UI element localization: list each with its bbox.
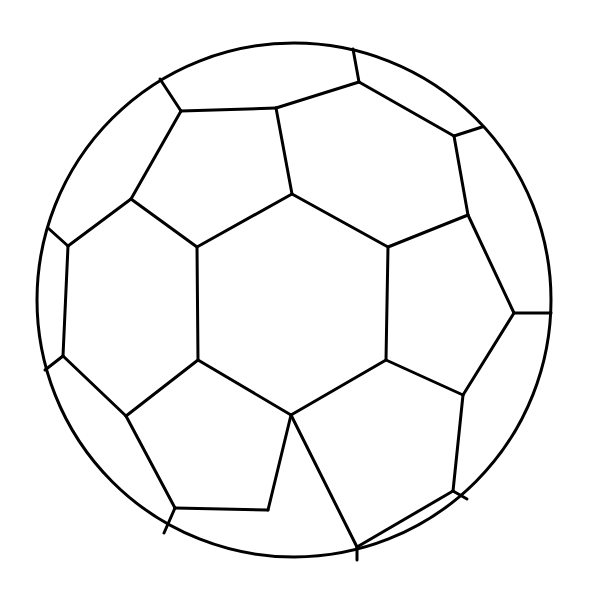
soccer-ball-drawing: [0, 0, 589, 610]
panel-edge: [175, 508, 268, 510]
soccer-ball-icon: [0, 0, 589, 610]
background: [0, 0, 589, 610]
